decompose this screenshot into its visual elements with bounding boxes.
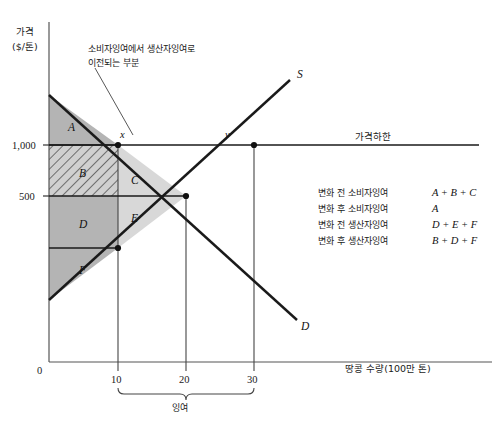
x-tick-label-10: 10 [111, 374, 122, 385]
origin-label: 0 [37, 365, 42, 376]
y-tick-label-500: 500 [19, 191, 35, 202]
point-x-label: x [119, 129, 125, 140]
legend-formula-0: A + B + C [431, 187, 477, 198]
y-tick-label-1000: 1,000 [12, 140, 36, 151]
demand-curve-label: D [300, 320, 310, 332]
price-floor-diagram: 가격 ($/톤) 소비자잉여에서 생산자잉여로 이전되는 부분 1,000 50… [0, 0, 499, 425]
point-y-marker [251, 142, 257, 148]
transfer-annotation-line2: 이전되는 부분 [88, 58, 139, 68]
region-label-C: C [131, 174, 139, 186]
x-tick-label-20: 20 [179, 374, 190, 385]
x-tick-label-30: 30 [247, 374, 258, 385]
legend-term-1: 변화 후 소비자잉여 [318, 203, 388, 214]
price-floor-label: 가격하한 [355, 131, 391, 142]
legend-formula-2: D + E + F [431, 219, 478, 230]
legend-term-0: 변화 전 소비자잉여 [318, 187, 388, 198]
legend-formula-3: B + D + F [432, 235, 478, 246]
supply-at-q10-marker [115, 245, 121, 251]
legend-formula-1: A [431, 203, 439, 214]
point-x-marker [115, 142, 121, 148]
region-label-D: D [78, 218, 88, 230]
y-axis-title-line1: 가격 [16, 26, 34, 37]
equilibrium-marker [183, 193, 189, 199]
point-y-label: y [224, 129, 230, 140]
region-label-F: F [78, 264, 87, 276]
x-axis-title: 땅콩 수량(100만 톤) [345, 363, 431, 374]
transfer-annotation-line1: 소비자잉여에서 생산자잉여로 [88, 43, 195, 54]
surplus-brace-label: 잉여 [172, 402, 188, 413]
region-label-B: B [79, 167, 86, 179]
region-label-E: E [130, 212, 138, 224]
legend-term-3: 변화 후 생산자잉여 [318, 235, 388, 246]
supply-curve-label: S [297, 68, 303, 80]
diagram-canvas: 가격 ($/톤) 소비자잉여에서 생산자잉여로 이전되는 부분 1,000 50… [0, 0, 499, 425]
region-label-A: A [67, 121, 76, 133]
legend-term-2: 변화 전 생산자잉여 [318, 219, 388, 230]
y-axis-title-line2: ($/톤) [12, 41, 38, 52]
